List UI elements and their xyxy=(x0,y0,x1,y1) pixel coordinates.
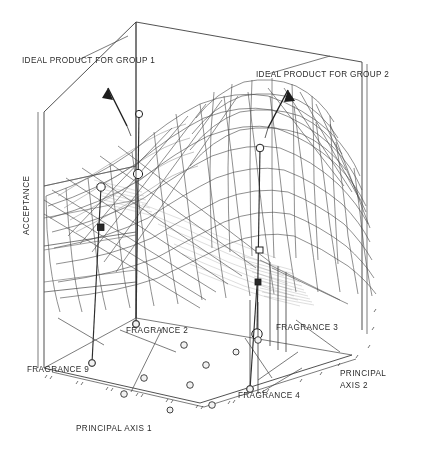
acceptance-axis-label: ACCEPTANCE xyxy=(22,176,31,235)
fragrance-9-label: FRAGRANCE 9 xyxy=(27,365,89,374)
principal-axis-2-label-line2: AXIS 2 xyxy=(340,381,368,390)
principal-axis-2-label-line1: PRINCIPAL xyxy=(340,369,386,378)
ideal-product-group-2-label: IDEAL PRODUCT FOR GROUP 2 xyxy=(256,70,389,79)
principal-axis-1-label: PRINCIPAL AXIS 1 xyxy=(76,424,152,433)
fragrance-3-label: FRAGRANCE 3 xyxy=(276,323,338,332)
figure-canvas: IDEAL PRODUCT FOR GROUP 1 IDEAL PRODUCT … xyxy=(0,0,437,454)
fragrance-4-label: FRAGRANCE 4 xyxy=(238,391,300,400)
fragrance-2-label: FRAGRANCE 2 xyxy=(126,326,188,335)
ideal-product-group-1-label: IDEAL PRODUCT FOR GROUP 1 xyxy=(22,56,155,65)
